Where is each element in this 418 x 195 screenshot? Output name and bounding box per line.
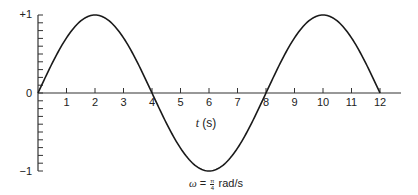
- x-axis-label: t (s): [196, 117, 217, 129]
- x-tick-label: 7: [234, 97, 240, 108]
- x-tick-label: 12: [374, 97, 386, 108]
- omega-unit: rad/s: [219, 177, 243, 189]
- y-tick-label-top: +1: [6, 9, 32, 20]
- x-axis-unit: (s): [202, 116, 216, 130]
- x-axis: [38, 88, 401, 93]
- equals-sign: =: [200, 177, 206, 189]
- omega-symbol: ω: [189, 177, 197, 189]
- x-tick-label: 8: [263, 97, 269, 108]
- omega-annotation: ω = π 4 rad/s: [189, 178, 243, 191]
- x-tick-label: 2: [92, 97, 98, 108]
- x-tick-label: 4: [149, 97, 155, 108]
- x-tick-label: 5: [177, 97, 183, 108]
- x-tick-label: 11: [346, 97, 357, 108]
- pi-over-four-fraction: π 4: [210, 178, 214, 191]
- x-axis-variable: t: [196, 116, 199, 130]
- x-tick-label: 9: [291, 97, 297, 108]
- y-tick-label-zero: 0: [6, 88, 32, 99]
- x-tick-label: 6: [206, 97, 212, 108]
- y-tick-label-bottom: −1: [6, 166, 32, 177]
- x-tick-label: 3: [120, 97, 126, 108]
- fraction-denominator: 4: [210, 185, 214, 191]
- x-tick-label: 1: [63, 97, 69, 108]
- x-tick-label: 10: [317, 97, 329, 108]
- fraction-numerator: π: [210, 178, 214, 185]
